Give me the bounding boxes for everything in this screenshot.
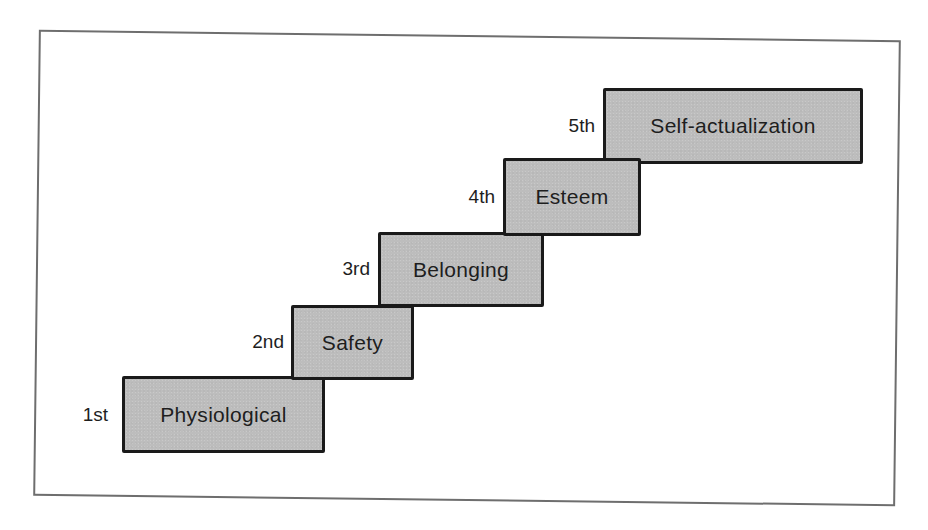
step-ordinal-4th: 4th <box>445 185 495 209</box>
step-box-belonging: Belonging <box>378 232 544 307</box>
step-box-physiological: Physiological <box>122 376 325 453</box>
step-label-physiological: Physiological <box>160 403 286 427</box>
step-label-self-actualization: Self-actualization <box>650 114 815 138</box>
step-ordinal-5th: 5th <box>545 114 595 138</box>
step-box-safety: Safety <box>291 305 414 380</box>
step-label-safety: Safety <box>322 331 383 355</box>
step-ordinal-3rd: 3rd <box>318 257 370 281</box>
step-ordinal-2nd: 2nd <box>232 330 284 354</box>
step-box-esteem: Esteem <box>503 158 641 236</box>
step-label-esteem: Esteem <box>536 185 609 209</box>
step-label-belonging: Belonging <box>413 258 509 282</box>
step-box-self-actualization: Self-actualization <box>603 88 863 164</box>
step-ordinal-1st: 1st <box>62 403 108 427</box>
